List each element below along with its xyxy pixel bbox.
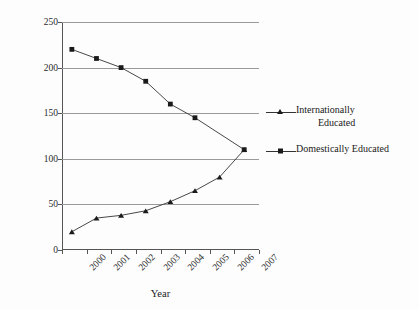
x-tick-label: 2005 xyxy=(211,252,232,273)
legend-item-internationally-educated: Internationally Educated xyxy=(266,104,416,129)
square-data-marker xyxy=(69,47,74,52)
square-data-marker xyxy=(242,147,247,152)
square-data-marker xyxy=(119,65,124,70)
y-tick-label: 50 xyxy=(32,199,58,209)
chart-figure: Number of Full-Time Nurses 0501001502002… xyxy=(0,0,419,310)
triangle-data-marker xyxy=(167,199,173,204)
legend-label-line1: Internationally xyxy=(296,104,355,115)
legend-label-line2: Educated xyxy=(296,117,355,130)
square-data-marker xyxy=(168,102,173,107)
square-data-marker xyxy=(94,56,99,61)
data-series-layer xyxy=(62,22,259,250)
triangle-marker-icon xyxy=(266,106,296,118)
y-tick-label: 100 xyxy=(32,154,58,164)
square-data-marker xyxy=(143,79,148,84)
x-axis-title: Year xyxy=(62,288,259,299)
y-tick-label: 150 xyxy=(32,108,58,118)
y-axis-tick-labels: 050100150200250 xyxy=(28,22,58,250)
legend-label-line1: Domestically Educated xyxy=(296,143,389,154)
x-tick-label: 2002 xyxy=(137,252,158,273)
chart-legend: Internationally Educated Domestically Ed… xyxy=(266,104,416,171)
x-tick-label: 2001 xyxy=(112,252,133,273)
x-tick-label: 2004 xyxy=(186,252,207,273)
x-tick-label: 2007 xyxy=(260,252,281,273)
legend-item-domestically-educated: Domestically Educated xyxy=(266,143,416,157)
series-line xyxy=(72,49,244,149)
y-tick-label: 200 xyxy=(32,63,58,73)
y-tick-label: 250 xyxy=(32,17,58,27)
x-axis-tick-labels: 20002001200220032004200520062007 xyxy=(62,252,272,292)
legend-label: Domestically Educated xyxy=(296,143,389,156)
square-marker-icon xyxy=(266,145,296,157)
legend-label: Internationally Educated xyxy=(296,104,355,129)
x-tick-label: 2003 xyxy=(161,252,182,273)
x-tick-label: 2006 xyxy=(235,252,256,273)
square-data-marker xyxy=(193,115,198,120)
x-tick-label: 2000 xyxy=(87,252,108,273)
y-tick-label: 0 xyxy=(32,245,58,255)
plot-area xyxy=(62,22,259,250)
